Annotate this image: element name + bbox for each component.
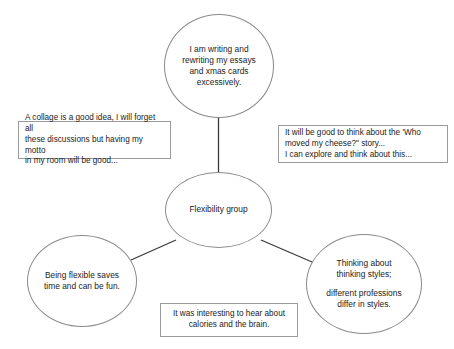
node-top-label: I am writing and rewriting my essays and… xyxy=(174,44,264,88)
node-flexibility-group[interactable]: Flexibility group xyxy=(165,172,272,248)
node-bottom-right-spacer xyxy=(326,280,401,287)
note-calories-and-brain[interactable]: It was interesting to hear about calorie… xyxy=(160,303,298,337)
connector-center-to-bottom-left xyxy=(131,240,176,260)
node-thinking-styles[interactable]: Thinking about thinking styles; differen… xyxy=(306,234,422,334)
note-right-text: It will be good to think about the 'Who … xyxy=(279,124,447,165)
node-writing-essays[interactable]: I am writing and rewriting my essays and… xyxy=(164,14,274,118)
node-bottom-left-label: Being flexible saves time and can be fun… xyxy=(36,270,128,292)
note-left-text: A collage is a good idea, I will forget … xyxy=(19,109,170,172)
node-bottom-right-label: Thinking about thinking styles; differen… xyxy=(318,258,409,310)
node-center-label: Flexibility group xyxy=(181,204,255,215)
node-being-flexible[interactable]: Being flexible saves time and can be fun… xyxy=(27,235,137,327)
diagram-canvas: I am writing and rewriting my essays and… xyxy=(0,0,454,349)
note-who-moved-my-cheese[interactable]: It will be good to think about the 'Who … xyxy=(278,125,448,163)
note-collage-motto[interactable]: A collage is a good idea, I will forget … xyxy=(18,121,171,159)
note-bottom-text: It was interesting to hear about calorie… xyxy=(161,305,297,335)
connector-center-to-bottom-right xyxy=(261,240,312,262)
